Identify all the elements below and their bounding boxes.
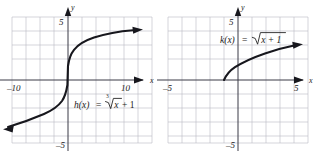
ytick-label-right--5: –5 [225,140,236,150]
x-axis-arrow-right-icon [134,77,144,84]
x-axis-label-left: x [149,76,154,85]
graph-panel-right: x y –5 5 5 –5 k(x) = x + 1 [157,0,315,151]
y-axis-label-left: y [70,3,75,12]
equation-left-equals: = [96,100,101,110]
ytick-label-left--5: –5 [55,140,66,150]
graph-svg-right: x y –5 5 5 –5 k(x) = x + 1 [157,0,315,151]
curve-cube-root-left [8,27,143,127]
equation-right-fname: k(x) [220,35,235,46]
x-axis-label-right: x [308,76,313,85]
xtick-label-left--10: –10 [6,83,21,93]
equation-left-fname: h(x) [74,100,89,111]
xtick-label-right--5: –5 [162,83,173,93]
equation-label-right: k(x) = x + 1 [220,33,285,46]
ytick-label-left-5: 5 [59,17,64,27]
two-panel-graph-figure: x y –10 10 5 –5 h(x) = 3 x + 1 [0,0,315,151]
graph-panel-left: x y –10 10 5 –5 h(x) = 3 x + 1 [0,0,157,151]
equation-left-root-index: 3 [106,93,109,99]
axes-left [0,7,144,151]
xtick-label-right-5: 5 [294,83,299,93]
y-axis-label-right: y [240,3,245,12]
axes-right [157,7,304,151]
equation-right-radicand: x + 1 [260,35,281,45]
graph-svg-left: x y –10 10 5 –5 h(x) = 3 x + 1 [0,0,157,151]
equation-right-equals: = [242,35,247,45]
xtick-label-left-10: 10 [121,83,131,93]
ytick-label-right-5: 5 [229,17,234,27]
equation-left-radicand: x [113,100,119,110]
curve-square-root-right [224,42,303,80]
equation-left-tail: + 1 [122,100,135,110]
